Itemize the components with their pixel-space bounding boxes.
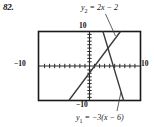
- x-axis-max-label: 10: [141, 59, 149, 68]
- y-axis-min-label: −10: [76, 100, 88, 109]
- exercise-figure: 82.: [0, 0, 154, 127]
- equation-label-y1: y1 = −3(x − 6): [76, 113, 124, 124]
- y-axis-max-label: 10: [79, 21, 87, 30]
- equation-label-y2: y2 = 2x − 2: [81, 3, 118, 14]
- equation-label-y2-body: = 2x − 2: [88, 3, 118, 12]
- x-axis-min-label: −10: [14, 59, 26, 68]
- equation-label-y1-body: = −3(x − 6): [83, 113, 124, 122]
